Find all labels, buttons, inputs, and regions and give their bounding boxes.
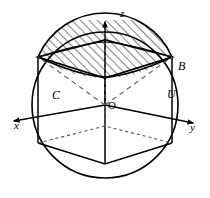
figure-canvas <box>0 0 210 198</box>
point-b-label: B <box>178 60 185 72</box>
z-axis-label: z <box>120 8 124 19</box>
x-axis-label: x <box>14 120 19 131</box>
y-axis <box>105 105 193 123</box>
origin-label: O <box>108 100 116 111</box>
x-axis <box>14 105 105 121</box>
y-axis-label: y <box>190 122 195 133</box>
point-c-label: C <box>52 89 60 101</box>
point-u-label: U <box>167 88 176 100</box>
geometry-figure: z x y O B C U <box>0 0 210 198</box>
